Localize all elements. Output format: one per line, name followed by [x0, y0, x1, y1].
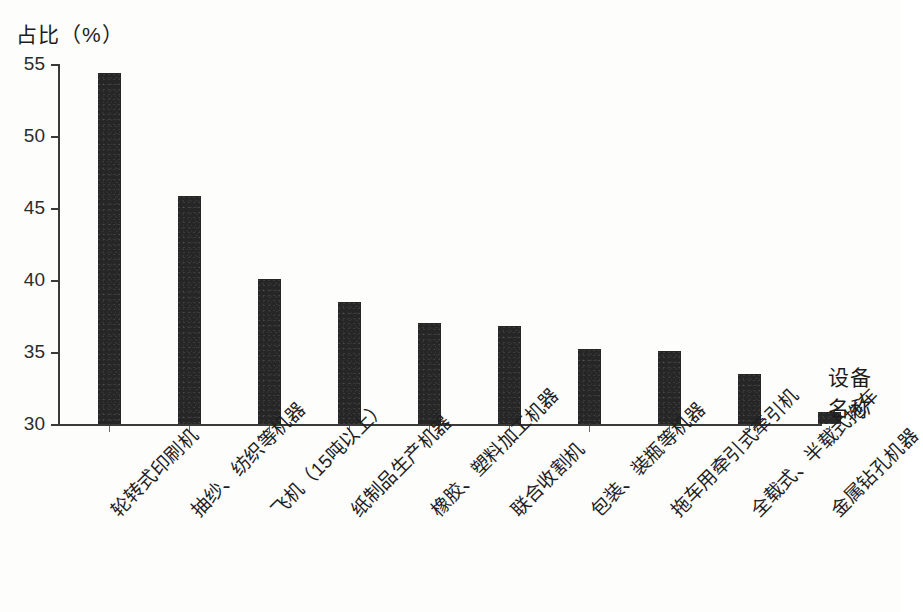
y-axis-title: 占比（%）: [16, 18, 124, 48]
bar: [578, 349, 601, 424]
y-tick-35: 35: [51, 352, 59, 354]
x-axis-category-label: 联合收割机: [503, 435, 589, 521]
y-axis-line: [58, 64, 60, 426]
bar: [178, 196, 201, 424]
y-tick-label: 45: [24, 197, 45, 219]
y-tick-label: 50: [24, 125, 45, 147]
y-tick-40: 40: [51, 280, 59, 282]
y-tick-label: 55: [24, 53, 45, 75]
y-tick-label: 30: [24, 413, 45, 435]
y-tick-label: 40: [24, 269, 45, 291]
bar: [258, 279, 281, 424]
x-axis-title-line: 名称: [828, 393, 872, 424]
y-tick-30: 30: [51, 424, 59, 426]
bar: [98, 73, 121, 424]
y-tick-45: 45: [51, 208, 59, 210]
x-tick: [109, 426, 110, 432]
bar: [338, 302, 361, 424]
x-tick: [589, 426, 590, 432]
x-axis-title: 设备名称: [828, 362, 872, 424]
y-tick-50: 50: [51, 136, 59, 138]
y-tick-55: 55: [51, 64, 59, 66]
y-tick-label: 35: [24, 341, 45, 363]
plot-area: 303540455055 轮转式印刷机抽纱、纺织等机器飞机（15吨以上）纸制品生…: [58, 64, 822, 426]
x-axis-title-line: 设备: [828, 362, 872, 393]
